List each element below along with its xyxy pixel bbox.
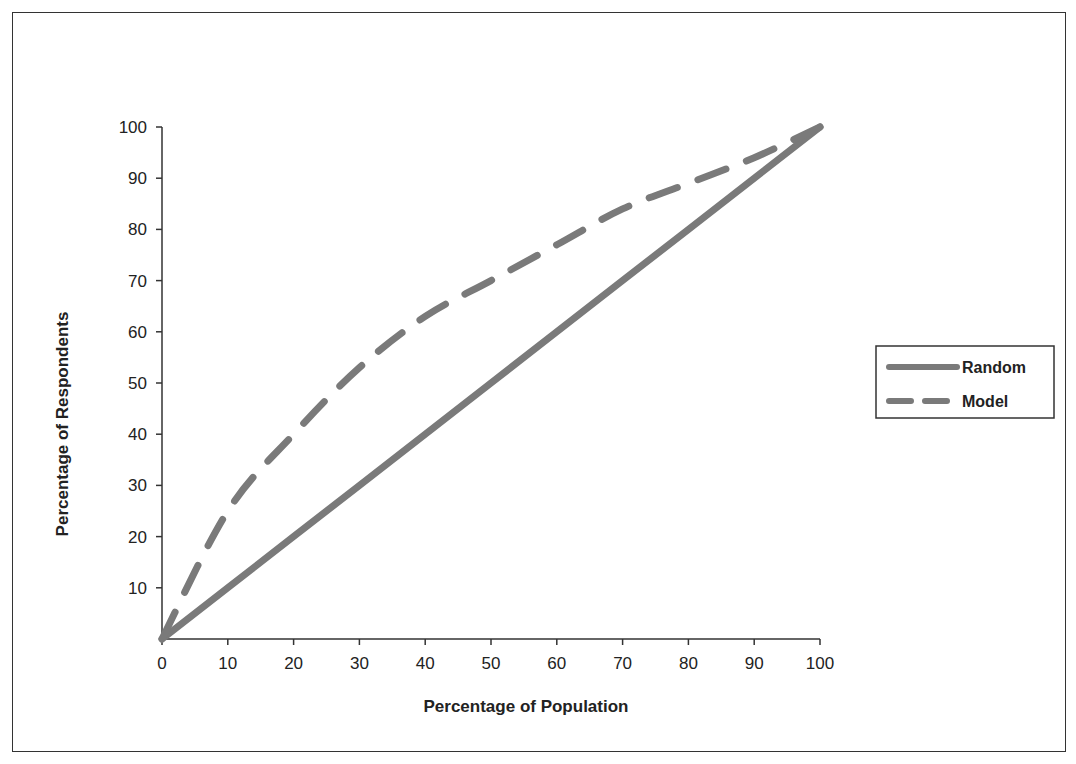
y-tick-label: 80 <box>128 220 147 239</box>
x-tick-label: 80 <box>679 654 698 673</box>
series-lines <box>162 127 820 639</box>
line-chart: 0102030405060708090100102030405060708090… <box>0 0 1076 764</box>
x-tick-label: 20 <box>284 654 303 673</box>
legend: Random Model <box>876 346 1054 418</box>
y-tick-label: 100 <box>119 118 147 137</box>
y-tick-label: 60 <box>128 323 147 342</box>
y-axis-title: Percentage of Respondents <box>53 312 72 537</box>
series-random-line <box>162 127 820 639</box>
y-tick-label: 90 <box>128 169 147 188</box>
y-tick-label: 20 <box>128 528 147 547</box>
x-tick-label: 10 <box>218 654 237 673</box>
x-axis-title: Percentage of Population <box>424 697 629 716</box>
y-tick-label: 40 <box>128 425 147 444</box>
x-tick-label: 90 <box>745 654 764 673</box>
y-tick-label: 70 <box>128 272 147 291</box>
y-tick-label: 10 <box>128 579 147 598</box>
x-tick-label: 30 <box>350 654 369 673</box>
legend-model-label: Model <box>962 393 1008 410</box>
x-tick-label: 40 <box>416 654 435 673</box>
x-tick-label: 70 <box>613 654 632 673</box>
legend-random-label: Random <box>962 359 1026 376</box>
x-tick-label: 50 <box>482 654 501 673</box>
x-tick-label: 100 <box>806 654 834 673</box>
x-tick-label: 60 <box>547 654 566 673</box>
x-tick-label: 0 <box>157 654 166 673</box>
y-tick-label: 50 <box>128 374 147 393</box>
y-tick-label: 30 <box>128 476 147 495</box>
